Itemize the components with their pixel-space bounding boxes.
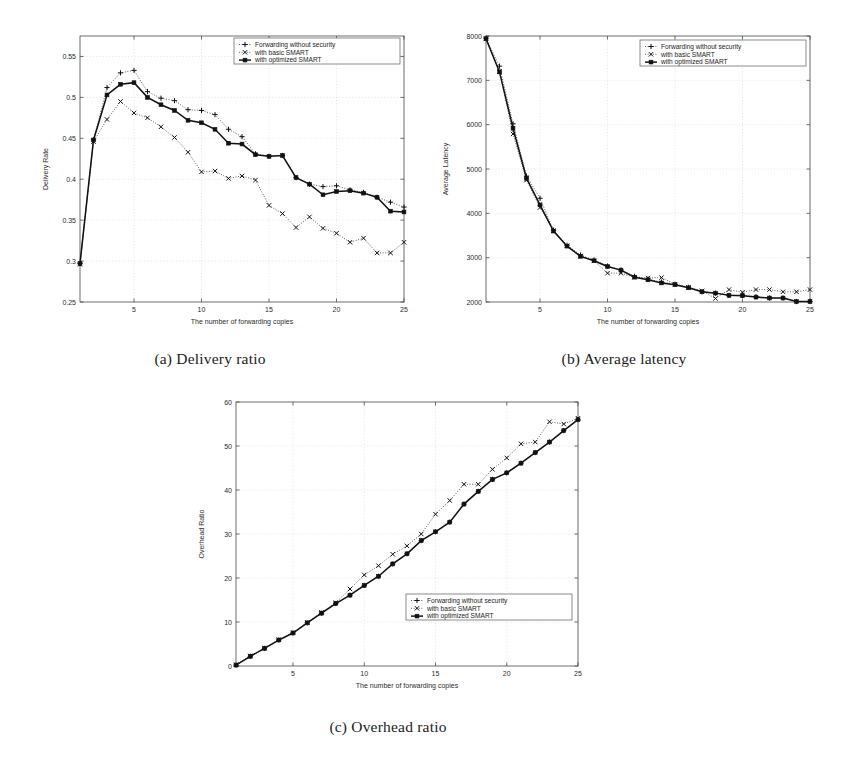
chart-panel-delivery-ratio: 5101520250.250.30.350.40.450.50.55The nu… xyxy=(22,14,422,354)
marker-cross xyxy=(533,440,537,444)
marker-cross xyxy=(519,442,523,446)
marker-square xyxy=(375,195,379,199)
y-tick-label: 0.5 xyxy=(66,94,76,101)
data-series xyxy=(483,36,812,305)
marker-square xyxy=(362,584,366,588)
marker-square xyxy=(213,127,217,131)
marker-cross xyxy=(226,176,230,180)
marker-square xyxy=(619,268,623,272)
y-tick-label: 0 xyxy=(228,663,232,670)
grid-lines xyxy=(80,36,404,302)
series-markers-square xyxy=(484,37,812,304)
series-line-square xyxy=(236,420,578,666)
series-markers-plus xyxy=(483,36,812,305)
marker-cross xyxy=(547,420,551,424)
marker-square xyxy=(646,278,650,282)
y-axis-title: Average Latency xyxy=(442,142,450,195)
y-tick-label: 0.25 xyxy=(62,299,76,306)
series-markers-cross xyxy=(234,416,580,667)
y-tick-label: 30 xyxy=(224,531,232,538)
axes-frame xyxy=(80,36,404,302)
marker-plus xyxy=(226,127,231,132)
marker-square xyxy=(687,286,691,290)
y-axis-title: Overhead Ratio xyxy=(198,509,205,558)
marker-square xyxy=(562,429,566,433)
marker-square xyxy=(491,478,495,482)
marker-square xyxy=(277,638,281,642)
marker-square xyxy=(308,182,312,186)
marker-square xyxy=(633,275,637,279)
marker-cross xyxy=(767,287,771,291)
x-tick-label: 10 xyxy=(604,306,612,313)
x-axis-title: The number of forwarding copies xyxy=(597,318,700,326)
marker-square xyxy=(146,95,150,99)
marker-square xyxy=(579,254,583,258)
marker-plus xyxy=(131,68,136,73)
marker-cross xyxy=(186,150,190,154)
marker-cross xyxy=(145,116,149,120)
marker-square xyxy=(519,461,523,465)
series-line-square xyxy=(486,39,810,302)
x-tick-label: 25 xyxy=(400,306,408,313)
series-markers-square xyxy=(78,81,406,266)
y-tick-label: 50 xyxy=(224,443,232,450)
marker-square xyxy=(240,142,244,146)
y-tick-label: 0.4 xyxy=(66,176,76,183)
marker-cross xyxy=(321,226,325,230)
marker-square xyxy=(714,291,718,295)
x-tick-label: 25 xyxy=(574,670,582,677)
marker-cross xyxy=(348,587,352,591)
x-tick-label: 15 xyxy=(671,306,679,313)
x-axis-title: The number of forwarding copies xyxy=(356,682,459,690)
marker-square xyxy=(200,121,204,125)
marker-square xyxy=(576,418,580,422)
marker-square xyxy=(434,530,438,534)
marker-cross xyxy=(476,482,480,486)
x-tick-label: 15 xyxy=(265,306,273,313)
marker-cross xyxy=(490,467,494,471)
marker-square xyxy=(649,60,653,64)
marker-cross xyxy=(172,135,176,139)
marker-square xyxy=(334,602,338,606)
marker-square xyxy=(281,154,285,158)
y-tick-label: 6000 xyxy=(466,121,482,128)
marker-cross xyxy=(132,111,136,115)
legend-label: with optimized SMART xyxy=(660,58,728,66)
marker-plus xyxy=(401,204,406,209)
marker-square xyxy=(248,654,252,658)
x-tick-label: 20 xyxy=(503,670,511,677)
marker-square xyxy=(741,294,745,298)
legend-label: with basic SMART xyxy=(254,49,309,56)
marker-square xyxy=(606,265,610,269)
marker-square xyxy=(321,193,325,197)
marker-square xyxy=(389,209,393,213)
x-tick-label: 5 xyxy=(132,306,136,313)
chart-legend: Forwarding without securitywith basic SM… xyxy=(640,40,806,66)
marker-cross xyxy=(391,552,395,556)
y-tick-label: 8000 xyxy=(466,33,482,40)
marker-cross xyxy=(240,174,244,178)
series-markers-cross xyxy=(484,36,812,300)
marker-cross xyxy=(388,251,392,255)
y-axis-title: Delivery Rate xyxy=(42,148,50,190)
marker-square xyxy=(498,70,502,74)
marker-cross xyxy=(376,563,380,567)
legend-label: with optimized SMART xyxy=(426,612,494,620)
marker-square xyxy=(92,138,96,142)
marker-square xyxy=(415,614,419,618)
marker-square xyxy=(538,203,542,207)
caption-c: (c) Overhead ratio xyxy=(178,718,598,736)
marker-square xyxy=(700,290,704,294)
average-latency-plot: 5101520252000300040005000600070008000The… xyxy=(424,14,824,354)
series-markers-cross xyxy=(78,99,406,266)
marker-square xyxy=(348,593,352,597)
marker-square xyxy=(335,190,339,194)
series-markers-square xyxy=(234,418,580,667)
y-tick-label: 5000 xyxy=(466,166,482,173)
marker-square xyxy=(119,82,123,86)
marker-cross xyxy=(362,573,366,577)
marker-square xyxy=(132,81,136,85)
grid-lines xyxy=(486,36,810,302)
marker-cross xyxy=(448,498,452,502)
marker-square xyxy=(476,489,480,493)
